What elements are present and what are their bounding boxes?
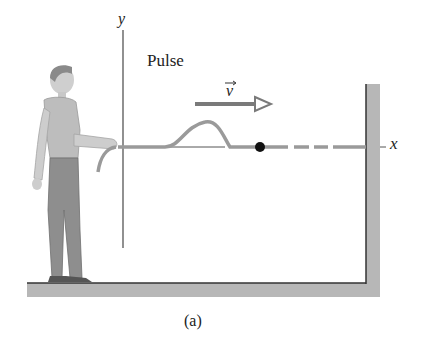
string-point-marker [255, 142, 265, 152]
pulse-label: Pulse [147, 51, 184, 71]
y-axis-label: y [118, 10, 125, 28]
velocity-label: v [226, 82, 233, 100]
floor [27, 283, 380, 297]
wall [366, 84, 380, 297]
figure-caption: (a) [184, 312, 202, 330]
pulse-diagram [0, 0, 421, 348]
x-axis-label: x [390, 134, 398, 154]
velocity-arrow-head [255, 97, 271, 111]
string-pulse [118, 122, 262, 147]
person-figure [32, 65, 117, 282]
